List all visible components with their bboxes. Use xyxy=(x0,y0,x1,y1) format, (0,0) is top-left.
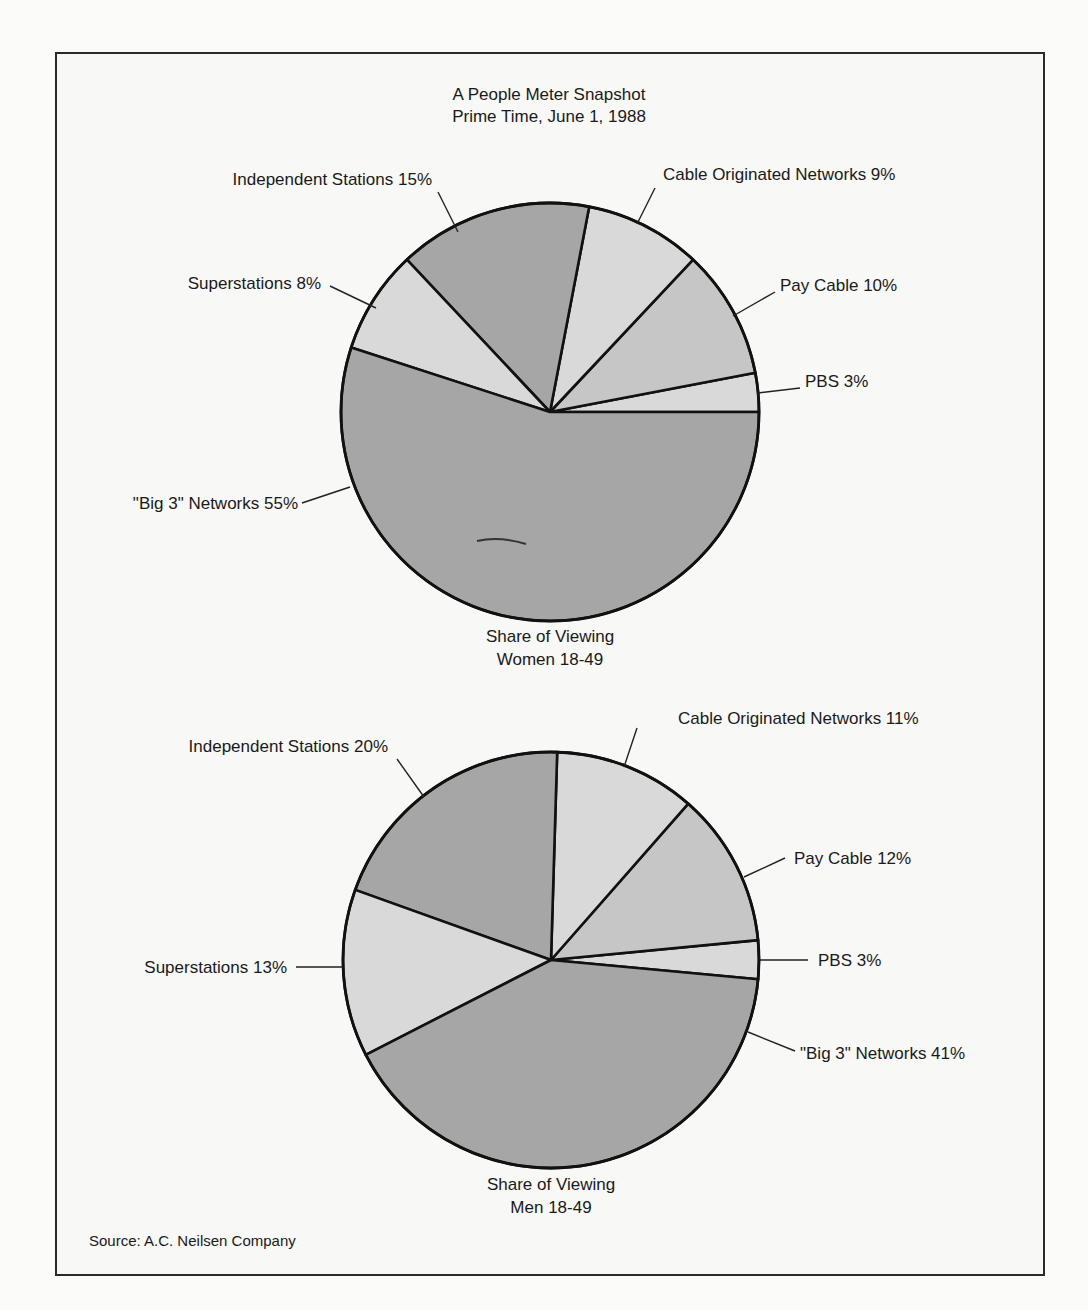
label-women-superstations: Superstations 8% xyxy=(188,274,321,293)
chart-subtitle: Prime Time, June 1, 1988 xyxy=(452,107,646,126)
label-women-pbs: PBS 3% xyxy=(805,372,868,391)
pie-women xyxy=(341,203,759,621)
caption-women-line1: Share of Viewing xyxy=(486,627,614,646)
pie-men xyxy=(343,752,759,1168)
label-men-independent: Independent Stations 20% xyxy=(189,737,388,756)
label-men-pbs: PBS 3% xyxy=(818,951,881,970)
source-note: Source: A.C. Neilsen Company xyxy=(89,1232,296,1249)
pie-charts: A People Meter Snapshot Prime Time, June… xyxy=(0,0,1088,1310)
label-women-cable-originated: Cable Originated Networks 9% xyxy=(663,165,895,184)
chart-title: A People Meter Snapshot xyxy=(453,85,646,104)
label-men-pay-cable: Pay Cable 12% xyxy=(794,849,911,868)
label-women-independent: Independent Stations 15% xyxy=(233,170,432,189)
label-men-superstations: Superstations 13% xyxy=(144,958,287,977)
label-men-cable-originated: Cable Originated Networks 11% xyxy=(678,709,919,728)
caption-men-line2: Men 18-49 xyxy=(510,1198,591,1217)
label-women-pay-cable: Pay Cable 10% xyxy=(780,276,897,295)
label-men-big3: "Big 3" Networks 41% xyxy=(800,1044,965,1063)
caption-men-line1: Share of Viewing xyxy=(487,1175,615,1194)
label-women-big3: "Big 3" Networks 55% xyxy=(133,494,298,513)
caption-women-line2: Women 18-49 xyxy=(497,650,603,669)
